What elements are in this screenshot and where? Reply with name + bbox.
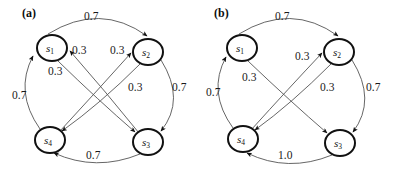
edge-s2-s3: [352, 60, 365, 132]
edge-s2-s4: [62, 64, 140, 131]
edge-s1-s3: [58, 61, 135, 132]
node-s3[interactable]: s3: [133, 129, 163, 155]
node-s3-sub: 3: [338, 142, 342, 151]
panel-a: (a): [0, 0, 199, 172]
edge-label-s4-s2: 0.3: [110, 45, 124, 57]
node-s4[interactable]: s4: [228, 126, 258, 152]
node-s2-sub: 2: [337, 51, 341, 60]
edge-s4-s2: [251, 53, 322, 130]
edge-label-s4-s1: 0.7: [206, 87, 220, 99]
node-s1[interactable]: s1: [227, 35, 257, 61]
edge-label-s3-s4: 0.7: [86, 150, 100, 162]
node-s2-sub: 2: [146, 51, 150, 60]
node-s4-sub: 4: [48, 139, 52, 148]
edge-label-s2-s3: 0.7: [366, 82, 380, 94]
edge-label-s2-s3: 0.7: [172, 82, 186, 94]
edge-label-s3-s4: 1.0: [278, 150, 292, 162]
figure-markov-state-diagrams: (a): [0, 0, 398, 172]
panel-b: (b): [199, 0, 398, 172]
edge-label-s1-s3: 0.3: [48, 66, 62, 78]
node-s4-sub: 4: [241, 138, 245, 147]
edge-s1-s3: [248, 61, 327, 133]
node-s3-sub: 3: [146, 141, 150, 150]
edge-label-s4-s1: 0.7: [12, 90, 26, 102]
edge-label-s3-s1: 0.3: [72, 45, 86, 57]
node-s4[interactable]: s4: [35, 127, 65, 153]
node-s2[interactable]: s2: [324, 39, 354, 65]
edge-s2-s4: [255, 64, 331, 130]
node-s1-sub: 1: [50, 47, 54, 56]
edge-label-s4-s2: 0.3: [295, 51, 309, 63]
node-s1[interactable]: s1: [37, 35, 67, 61]
node-s3[interactable]: s3: [325, 130, 355, 156]
edge-s2-s3: [161, 60, 174, 131]
node-s2[interactable]: s2: [133, 39, 163, 65]
edge-label-s1-s3: 0.3: [242, 72, 256, 84]
edge-label-s2-s4: 0.3: [128, 82, 142, 94]
panel-a-graph: s1 s2 s4 s3: [0, 0, 199, 172]
node-s1-sub: 1: [240, 47, 244, 56]
edge-label-s1-s2: 0.7: [84, 11, 98, 23]
edge-s4-s1: [25, 56, 40, 129]
edge-label-s1-s2: 0.7: [275, 11, 289, 23]
edge-label-s2-s4: 0.3: [320, 82, 334, 94]
